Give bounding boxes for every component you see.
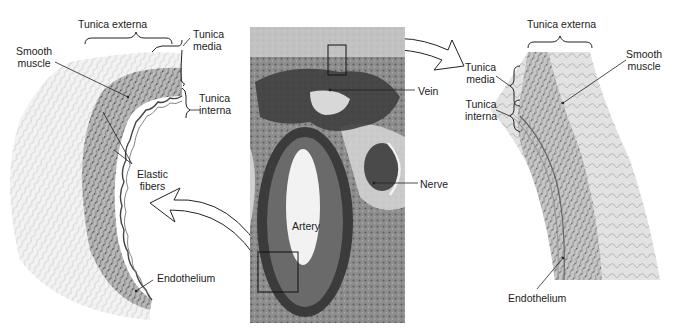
left-tunica-interna-line1: Tunica [199,92,231,104]
figure: Tunica externa Tunica media Tunica inter… [0,0,677,332]
left-elastic-fibers-line1: Elastic [137,168,168,180]
right-tunica-externa-label: Tunica externa [527,18,596,30]
left-tunica-media-label: Tunica media [193,28,224,52]
left-elastic-fibers-line2: fibers [137,180,168,192]
left-tunica-externa-label: Tunica externa [78,18,147,30]
right-tunica-media-label: Tunica media [465,61,496,85]
left-smooth-muscle-label: Smooth muscle [16,45,52,69]
left-elastic-fibers-label: Elastic fibers [137,168,168,192]
left-endothelium-label: Endothelium [157,272,215,284]
right-smooth-muscle-label: Smooth muscle [626,48,662,72]
left-tunica-media-line1: Tunica [193,28,224,40]
right-smooth-muscle-line2: muscle [626,60,662,72]
left-smooth-muscle-line1: Smooth [16,45,52,57]
right-endothelium-label: Endothelium [508,292,566,304]
right-tunica-media-line2: media [465,73,496,85]
artery-label: Artery [292,220,320,232]
vein-label: Vein [418,85,438,97]
right-smooth-muscle-line1: Smooth [626,48,662,60]
right-tunica-media-line1: Tunica [465,61,496,73]
right-tunica-interna-line2: interna [465,110,497,122]
nerve-label: Nerve [420,178,448,190]
right-tunica-interna-line1: Tunica [465,98,497,110]
right-tunica-interna-label: Tunica interna [465,98,497,122]
left-smooth-muscle-line2: muscle [16,57,52,69]
left-tunica-interna-line2: interna [199,104,231,116]
left-tunica-media-line2: media [193,40,224,52]
center-leaders [0,0,677,332]
left-tunica-interna-label: Tunica interna [199,92,231,116]
